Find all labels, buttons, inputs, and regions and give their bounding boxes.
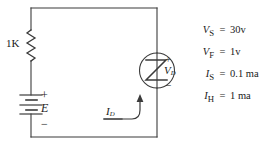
resistor-zigzag <box>27 30 35 61</box>
parameter-symbol-subscript: F <box>209 50 214 60</box>
parameter-list: VS = 30v VF = 1v IS = 0.1 ma IH = 1 ma <box>192 24 274 112</box>
parameter-equals: = <box>218 46 227 57</box>
parameter-equals: = <box>218 24 227 35</box>
parameter-row: VF = 1v <box>192 46 274 68</box>
parameter-equals: = <box>218 90 227 101</box>
diode-voltage-symbol: V <box>164 64 171 76</box>
circuit-diagram-canvas: 1K + E − + VD − ID VS = 30v VF = 1v IS =… <box>0 0 277 145</box>
diode-minus-sign: − <box>165 80 171 91</box>
parameter-symbol-subscript: H <box>208 94 214 104</box>
parameter-value: 0.1 ma <box>227 68 259 79</box>
parameter-symbol-subscript: S <box>209 72 214 82</box>
parameter-value: 1v <box>227 46 241 57</box>
current-subscript: D <box>110 110 115 117</box>
parameter-row: IH = 1 ma <box>192 90 274 112</box>
parameter-symbol: VF <box>192 46 218 60</box>
parameter-symbol: IS <box>192 68 218 82</box>
current-arrowhead <box>137 94 144 102</box>
parameter-row: VS = 30v <box>192 24 274 46</box>
parameter-symbol: IH <box>192 90 218 104</box>
battery-plus-sign: + <box>41 89 48 101</box>
parameter-symbol: VS <box>192 24 218 38</box>
parameter-row: IS = 0.1 ma <box>192 68 274 90</box>
diode-voltage-label: VD <box>164 65 176 77</box>
battery-minus-sign: − <box>41 118 48 130</box>
parameter-equals: = <box>218 68 227 79</box>
diode-voltage-subscript: D <box>171 69 176 76</box>
diode-current-label: ID <box>106 106 115 118</box>
battery-label: E <box>41 102 48 114</box>
parameter-value: 30v <box>227 24 246 35</box>
parameter-symbol-subscript: S <box>209 28 214 38</box>
parameter-value: 1 ma <box>227 90 251 101</box>
resistor-label: 1K <box>6 38 19 49</box>
